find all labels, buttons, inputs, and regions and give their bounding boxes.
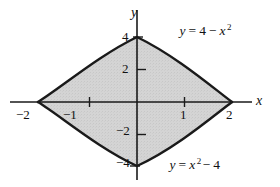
x-axis-label: x (256, 94, 262, 108)
equation-label-upper-curve: y=4−x2 (178, 24, 232, 38)
eq-upper-exponent: 2 (227, 22, 232, 32)
eq-upper-operator: − (209, 23, 217, 38)
x-tick-label-2: 2 (226, 108, 233, 121)
y-axis-label: y (131, 6, 137, 20)
y-tick-label-2: 2 (122, 62, 129, 75)
y-tick-label--4: −4 (116, 156, 130, 169)
parabola-region-figure: −2 −1 1 2 4 2 −2 −4 y x y=4−x2 y=x2−4 (0, 0, 280, 187)
eq-lower-exponent: 2 (197, 156, 202, 166)
x-tick-label-1: 1 (180, 108, 187, 121)
y-tick-label-4: 4 (122, 30, 129, 43)
x-tick-label--2: −2 (16, 108, 30, 121)
eq-lower-constant: 4 (213, 157, 220, 172)
plot-canvas (0, 0, 280, 187)
eq-upper-variable: x (220, 23, 226, 38)
eq-lower-operator: − (203, 157, 211, 172)
eq-upper-constant: 4 (199, 23, 206, 38)
eq-upper-equals: = (189, 23, 197, 38)
y-tick-label--2: −2 (116, 124, 130, 137)
x-tick-label--1: −1 (63, 108, 77, 121)
eq-lower-variable: x (189, 157, 195, 172)
eq-lower-lhs: y (170, 157, 176, 172)
eq-lower-equals: = (179, 157, 187, 172)
equation-label-lower-curve: y=x2−4 (168, 158, 222, 172)
eq-upper-lhs: y (180, 23, 186, 38)
